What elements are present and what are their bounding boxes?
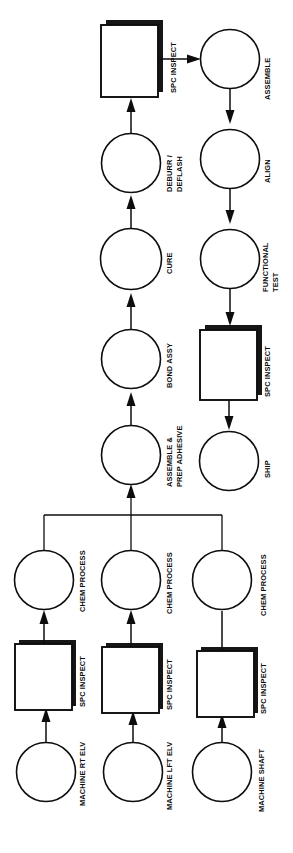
arrowhead-to-assemble-prep-adhesive [127, 484, 136, 498]
arrowhead-to-chem-process-2 [127, 610, 136, 624]
arrowhead-to-ship [225, 416, 234, 430]
arrowhead-to-spc-inspect-5 [226, 312, 235, 326]
label-spc-inspect-1: SPC INSPECT [78, 656, 87, 707]
node-spc-inspect-5[interactable] [200, 330, 257, 400]
node-functional-test[interactable] [201, 230, 260, 289]
arrowhead-to-bond-assy [127, 392, 136, 406]
label-spc-inspect-2: SPC INSPECT [165, 659, 174, 710]
label-ship: SHIP [263, 460, 272, 478]
label-chem-process-1: CHEM PROCESS [78, 550, 87, 612]
label-assemble-prep-adhesive-line1: ASSEMBLE & [165, 437, 174, 487]
node-align[interactable] [201, 130, 260, 189]
arrowhead-to-spc-inspect-4 [127, 98, 136, 112]
label-functional-test-line2: TEST [271, 272, 280, 292]
node-machine-lft-elv[interactable] [104, 743, 163, 802]
label-spc-inspect-5: SPC INSPECT [263, 346, 272, 397]
label-cure: CURE [165, 252, 174, 274]
arrowhead-to-assemble [187, 55, 201, 64]
label-assemble: ASSEMBLE [263, 58, 272, 100]
arrowhead-to-functional-test [226, 210, 235, 224]
label-spc-inspect-4: SPC INSPECT [169, 42, 178, 93]
node-ship[interactable] [200, 432, 259, 491]
label-deburr-deflash-line2: DEFLASH [175, 156, 184, 192]
process-flowchart: MACHINE RT ELV MACHINE LFT ELV MACHINE S… [0, 0, 293, 853]
node-chem-process-2[interactable] [102, 551, 161, 610]
label-machine-lft-elv: MACHINE LFT ELV [165, 742, 174, 810]
label-chem-process-3: CHEM PROCESS [259, 554, 268, 616]
label-machine-shaft: MACHINE SHAFT [257, 749, 266, 812]
node-chem-process-1[interactable] [15, 551, 74, 610]
arrowhead-to-chem-process-1 [40, 610, 49, 624]
label-chem-process-2: CHEM PROCESS [165, 552, 174, 614]
label-bond-assy: BOND ASSY [165, 343, 174, 388]
node-deburr-deflash[interactable] [102, 134, 161, 193]
arrowhead-to-deburr-deflash [127, 195, 136, 209]
node-chem-process-3[interactable] [193, 551, 252, 610]
flowchart-canvas: MACHINE RT ELV MACHINE LFT ELV MACHINE S… [0, 0, 293, 853]
label-align: ALIGN [263, 159, 272, 183]
arrowhead-to-align [226, 110, 235, 124]
label-spc-inspect-3: SPC INSPECT [259, 663, 268, 714]
node-assemble[interactable] [201, 30, 260, 89]
label-assemble-prep-adhesive-line2: PREP ADHESIVE [175, 425, 184, 487]
node-cure[interactable] [101, 229, 162, 290]
node-spc-inspect-1[interactable] [15, 644, 72, 710]
node-machine-shaft[interactable] [193, 743, 252, 802]
label-functional-test-line1: FUNCTIONAL [261, 242, 270, 292]
label-machine-rt-elv: MACHINE RT ELV [78, 742, 87, 806]
node-spc-inspect-4[interactable] [101, 25, 158, 97]
arrowhead-to-cure [127, 293, 136, 307]
node-assemble-prep-adhesive[interactable] [102, 426, 161, 485]
node-spc-inspect-2[interactable] [102, 647, 159, 713]
node-machine-rt-elv[interactable] [17, 743, 76, 802]
node-spc-inspect-3[interactable] [197, 651, 254, 717]
label-deburr-deflash-line1: DEBURR / [165, 155, 174, 192]
node-bond-assy[interactable] [102, 330, 161, 389]
